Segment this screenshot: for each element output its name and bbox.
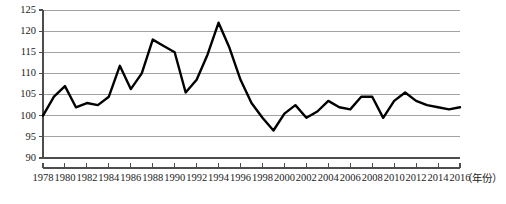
x-tick-label: 1990 (164, 172, 185, 183)
x-axis: 1978198019821984198619881990199219941996… (33, 158, 471, 183)
x-axis-caption: （年份） (462, 172, 502, 184)
y-tick-label: 125 (20, 4, 36, 15)
x-tick-label: 2014 (428, 172, 450, 183)
y-tick-label: 110 (21, 67, 36, 78)
x-tick-label: 1980 (54, 172, 75, 183)
x-tick-label: 1998 (252, 172, 273, 183)
y-tick-label: 120 (20, 25, 36, 36)
line-chart-figure: 9095100105110115120125 19781980198219841… (0, 0, 506, 204)
y-tick-label: 95 (26, 131, 37, 142)
x-tick-label: 2002 (296, 172, 317, 183)
x-tick-label: 2010 (384, 172, 405, 183)
x-tick-label: 2000 (274, 172, 295, 183)
x-tick-label: 2012 (406, 172, 427, 183)
x-tick-label: 2008 (362, 172, 383, 183)
data-series-line (43, 23, 460, 131)
y-axis: 9095100105110115120125 (20, 4, 43, 163)
x-tick-label: 1994 (208, 172, 230, 183)
data-series-group (43, 23, 460, 131)
y-tick-label: 90 (26, 152, 37, 163)
gridlines-group (43, 10, 460, 158)
y-tick-label: 115 (21, 46, 36, 57)
x-tick-label: 1978 (33, 172, 54, 183)
x-tick-label: 1996 (230, 172, 251, 183)
y-tick-label: 100 (20, 110, 36, 121)
x-tick-label: 1986 (120, 172, 141, 183)
chart-canvas: 9095100105110115120125 19781980198219841… (0, 0, 506, 204)
x-tick-label: 1988 (142, 172, 163, 183)
x-tick-label: 2006 (340, 172, 361, 183)
x-tick-label: 1984 (98, 172, 120, 183)
x-tick-label: 1992 (186, 172, 207, 183)
y-tick-label: 105 (20, 88, 36, 99)
x-tick-label: 1982 (76, 172, 97, 183)
x-tick-label: 2004 (318, 172, 340, 183)
